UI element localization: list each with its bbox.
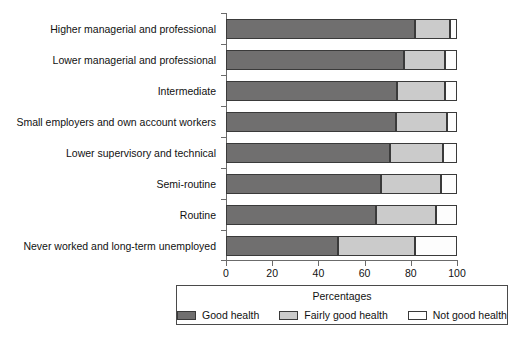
x-axis-tick (457, 261, 458, 266)
bar-segment (338, 236, 415, 256)
category-label: Intermediate (158, 84, 216, 98)
bar-segment (226, 174, 381, 194)
plot-area: Higher managerial and professional Lower… (0, 0, 520, 275)
bar-segment (226, 19, 415, 39)
legend-item-not-good-health: Not good health (408, 309, 507, 321)
legend-swatch-icon (279, 311, 298, 320)
x-axis-tick (272, 261, 273, 266)
bar-segment (441, 174, 457, 194)
bar-segment (443, 143, 457, 163)
category-label: Small employers and own account workers (16, 115, 216, 129)
bar-segment (404, 50, 446, 70)
legend-item-label: Fairly good health (304, 309, 387, 321)
x-axis-line (226, 260, 458, 261)
bar-segment (376, 205, 436, 225)
legend-item-good-health: Good health (177, 309, 259, 321)
bar-segment (226, 143, 390, 163)
bar-segment (396, 112, 447, 132)
stacked-bar-chart: Higher managerial and professional Lower… (0, 0, 520, 338)
legend-title: Percentages (177, 290, 507, 303)
legend-item-label: Good health (202, 309, 259, 321)
x-axis-tick (226, 261, 227, 266)
x-axis-tick-label: 60 (345, 267, 385, 279)
bars-container (226, 13, 466, 260)
legend-swatch-icon (177, 311, 196, 320)
legend-items: Good health Fairly good health Not good … (177, 307, 507, 323)
bar-segment (381, 174, 441, 194)
bar-segment (397, 81, 446, 101)
legend-item-fairly-good-health: Fairly good health (279, 309, 387, 321)
category-label: Semi-routine (156, 177, 216, 191)
bar-segment (226, 236, 338, 256)
legend-swatch-icon (408, 311, 427, 320)
x-axis-tick-label: 40 (298, 267, 338, 279)
x-axis-tick-label: 0 (206, 267, 246, 279)
category-label: Higher managerial and professional (50, 22, 216, 36)
bar-segment (226, 81, 397, 101)
x-axis-tick-label: 80 (391, 267, 431, 279)
bar-segment (226, 205, 376, 225)
x-axis-tick-label: 100 (437, 267, 477, 279)
x-axis-tick (318, 261, 319, 266)
legend-item-label: Not good health (433, 309, 507, 321)
bar-segment (445, 81, 457, 101)
bar-segment (436, 205, 457, 225)
bar-segment (390, 143, 443, 163)
bar-segment (447, 112, 457, 132)
x-axis-tick (365, 261, 366, 266)
bar-segment (226, 50, 404, 70)
category-label: Lower managerial and professional (53, 53, 216, 67)
category-label: Never worked and long-term unemployed (23, 239, 216, 253)
bar-segment (415, 236, 457, 256)
bar-segment (415, 19, 450, 39)
x-axis-tick-label: 20 (252, 267, 292, 279)
category-axis-labels: Higher managerial and professional Lower… (0, 12, 222, 260)
bar-segment (445, 50, 457, 70)
category-label: Lower supervisory and technical (66, 146, 216, 160)
bar-segment (226, 112, 396, 132)
category-label: Routine (180, 208, 216, 222)
bar-segment (450, 19, 457, 39)
x-axis-tick (411, 261, 412, 266)
chart-legend: Percentages Good health Fairly good heal… (176, 285, 508, 325)
